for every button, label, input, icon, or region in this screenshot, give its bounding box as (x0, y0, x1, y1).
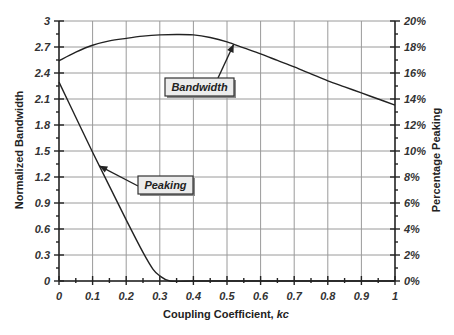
y-axis-title: Normalized Bandwidth (13, 90, 25, 209)
x-tick-label: 0.3 (152, 290, 167, 302)
callout-label: Peaking (144, 179, 186, 191)
y-tick-label: 3 (44, 15, 50, 27)
y2-tick-label: 0% (404, 275, 420, 287)
x-tick-label: 0.9 (354, 290, 370, 302)
y-tick-label: 1.8 (35, 119, 51, 131)
y2-tick-label: 12% (404, 119, 426, 131)
y2-tick-label: 14% (404, 93, 426, 105)
chart: 00.10.20.30.40.50.60.70.80.9100.30.60.91… (0, 0, 454, 335)
x-tick-label: 1 (392, 290, 398, 302)
y2-tick-label: 20% (403, 15, 426, 27)
x-tick-label: 0.7 (287, 290, 303, 302)
y2-axis-title: Percentage Peaking (430, 108, 442, 213)
x-axis-title-main: Coupling Coefficient, (163, 308, 277, 320)
y2-tick-label: 8% (404, 171, 420, 183)
y-tick-label: 2.7 (34, 41, 51, 53)
x-tick-label: 0.1 (85, 290, 100, 302)
x-tick-label: 0.6 (253, 290, 269, 302)
x-tick-label: 0.2 (119, 290, 134, 302)
y-tick-label: 0.9 (35, 197, 51, 209)
y-tick-label: 2.1 (34, 93, 50, 105)
y-tick-label: 0 (44, 275, 51, 287)
x-tick-label: 0.4 (186, 290, 201, 302)
y2-tick-label: 10% (404, 145, 426, 157)
x-axis-title: Coupling Coefficient, kc (163, 308, 289, 320)
x-tick-label: 0 (56, 290, 63, 302)
y-tick-label: 0.3 (35, 249, 50, 261)
callouts: BandwidthPeaking (99, 44, 236, 196)
y-tick-label: 1.5 (35, 145, 51, 157)
y-tick-label: 2.4 (34, 67, 50, 79)
x-tick-label: 0.5 (219, 290, 235, 302)
callout-bandwidth: Bandwidth (165, 44, 236, 98)
y2-tick-label: 2% (403, 249, 420, 261)
x-tick-label: 0.8 (320, 290, 336, 302)
y2-tick-label: 16% (404, 67, 426, 79)
y2-tick-label: 6% (404, 197, 420, 209)
callout-label: Bandwidth (171, 81, 227, 93)
callout-peaking: Peaking (99, 166, 195, 196)
x-axis-title-italic: kc (277, 308, 289, 320)
y-tick-label: 0.6 (35, 223, 51, 235)
y2-tick-label: 4% (403, 223, 420, 235)
y2-tick-label: 18% (404, 41, 426, 53)
y-tick-label: 1.2 (35, 171, 50, 183)
